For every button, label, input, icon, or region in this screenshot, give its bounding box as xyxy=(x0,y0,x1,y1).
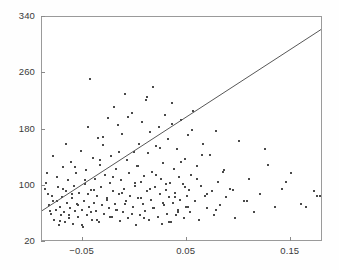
scatter-plot-figure: 20100180260340−0.050.050.15 xyxy=(0,0,339,270)
y-axis-tick-mark xyxy=(41,129,45,130)
y-axis-tick-label: 20 xyxy=(24,235,35,246)
x-axis-tick-mark xyxy=(186,237,187,241)
y-axis-tick-label: 180 xyxy=(19,123,35,134)
x-axis-tick-mark xyxy=(290,237,291,241)
y-axis-tick-mark xyxy=(41,16,45,17)
regression-line-layer xyxy=(42,17,321,240)
y-axis-tick-label: 260 xyxy=(19,66,35,77)
x-axis-tick-label: 0.05 xyxy=(176,245,195,256)
regression-line xyxy=(42,30,321,211)
y-axis-tick-mark xyxy=(41,241,45,242)
y-axis-tick-mark xyxy=(41,72,45,73)
x-axis-tick-mark xyxy=(82,237,83,241)
x-axis-tick-label: 0.15 xyxy=(280,245,299,256)
x-axis-tick-label: −0.05 xyxy=(69,245,94,256)
plot-area xyxy=(41,16,322,241)
y-axis-tick-label: 340 xyxy=(19,10,35,21)
y-axis-tick-mark xyxy=(41,185,45,186)
y-axis-tick-label: 100 xyxy=(19,179,35,190)
